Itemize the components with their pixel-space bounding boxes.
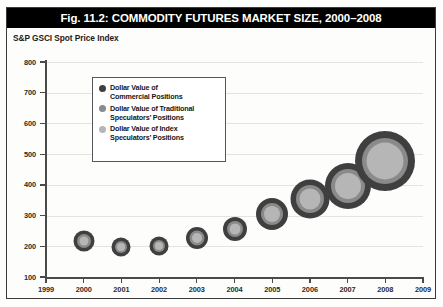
y-axis-tick-label: 600 [8, 119, 36, 128]
bubble-marker-2003 [192, 233, 202, 243]
y-axis-label-slot: 600 [8, 119, 36, 128]
x-axis-tick-label: 2002 [141, 285, 177, 294]
bubble-marker-2005 [264, 206, 280, 222]
chart-legend: Dollar Value of Commercial Positions Dol… [92, 77, 226, 162]
x-axis-tick [159, 277, 160, 283]
circle-marker-icon [99, 85, 106, 92]
x-axis-tick-label: 2008 [367, 285, 403, 294]
y-axis-label-slot: 400 [8, 180, 36, 189]
x-axis-tick [45, 277, 46, 283]
bubble-marker-2001 [117, 243, 125, 251]
x-axis-tick [347, 277, 348, 283]
y-axis-label-slot: 200 [8, 242, 36, 251]
x-axis-tick-label: 1999 [28, 285, 64, 294]
x-axis-tick [422, 277, 423, 283]
y-axis-tick-label: 100 [8, 273, 36, 282]
bubble-marker-2000 [79, 236, 88, 245]
bubble-marker-2007 [335, 173, 361, 199]
y-axis-tick-label: 200 [8, 242, 36, 251]
y-axis-tick [40, 184, 46, 185]
x-axis-tick [272, 277, 273, 283]
x-axis-tick-label: 2006 [292, 285, 328, 294]
figure-bottom-rule [6, 298, 436, 299]
x-axis-tick [196, 277, 197, 283]
y-axis-label-slot: 100 [8, 273, 36, 282]
circle-marker-icon [99, 126, 106, 133]
y-axis-label-slot: 500 [8, 150, 36, 159]
y-axis-tick [40, 246, 46, 247]
bubble-marker-2002 [155, 242, 163, 250]
bubble-marker-2004 [229, 224, 240, 235]
x-axis-tick-label: 2000 [66, 285, 102, 294]
legend-item-label: Dollar Value of Traditional Speculators’… [110, 104, 194, 123]
x-axis-tick [121, 277, 122, 283]
x-axis-tick-label: 2001 [103, 285, 139, 294]
x-axis-tick-label: 2007 [330, 285, 366, 294]
y-axis-label-slot: 800 [8, 58, 36, 67]
y-axis-tick-label: 400 [8, 180, 36, 189]
y-axis-tick [40, 123, 46, 124]
gridline [46, 62, 423, 63]
y-axis-tick-label: 500 [8, 150, 36, 159]
x-axis-tick-label: 2005 [254, 285, 290, 294]
y-axis-tick [40, 92, 46, 93]
y-axis-tick [40, 61, 46, 62]
circle-marker-icon [99, 105, 106, 112]
y-axis-tick-label: 300 [8, 211, 36, 220]
bubble-marker-2008 [367, 142, 404, 179]
y-axis-label-slot: 300 [8, 211, 36, 220]
x-axis-tick-label: 2004 [217, 285, 253, 294]
x-axis-tick-label: 2003 [179, 285, 215, 294]
y-axis-tick [40, 215, 46, 216]
gridline [46, 246, 423, 247]
legend-item-index-speculators: Dollar Value of Index Speculators’ Posit… [99, 124, 220, 143]
legend-item-commercial: Dollar Value of Commercial Positions [99, 83, 220, 102]
figure-container: Fig. 11.2: COMMODITY FUTURES MARKET SIZE… [0, 0, 443, 307]
y-axis-label-slot: 700 [8, 88, 36, 97]
legend-item-label: Dollar Value of Commercial Positions [110, 83, 183, 102]
legend-item-label: Dollar Value of Index Speculators’ Posit… [110, 124, 184, 143]
x-axis-tick [385, 277, 386, 283]
y-axis-tick-label: 700 [8, 88, 36, 97]
y-axis-tick-label: 800 [8, 58, 36, 67]
x-axis-tick-label: 2009 [405, 285, 441, 294]
x-axis-tick [83, 277, 84, 283]
x-axis-tick [309, 277, 310, 283]
bubble-marker-2006 [299, 188, 320, 209]
y-axis-tick [40, 154, 46, 155]
legend-item-traditional-speculators: Dollar Value of Traditional Speculators’… [99, 104, 220, 123]
plot-wrapper: 100200300400500600700800 199920002001200… [0, 0, 443, 307]
x-axis-tick [234, 277, 235, 283]
